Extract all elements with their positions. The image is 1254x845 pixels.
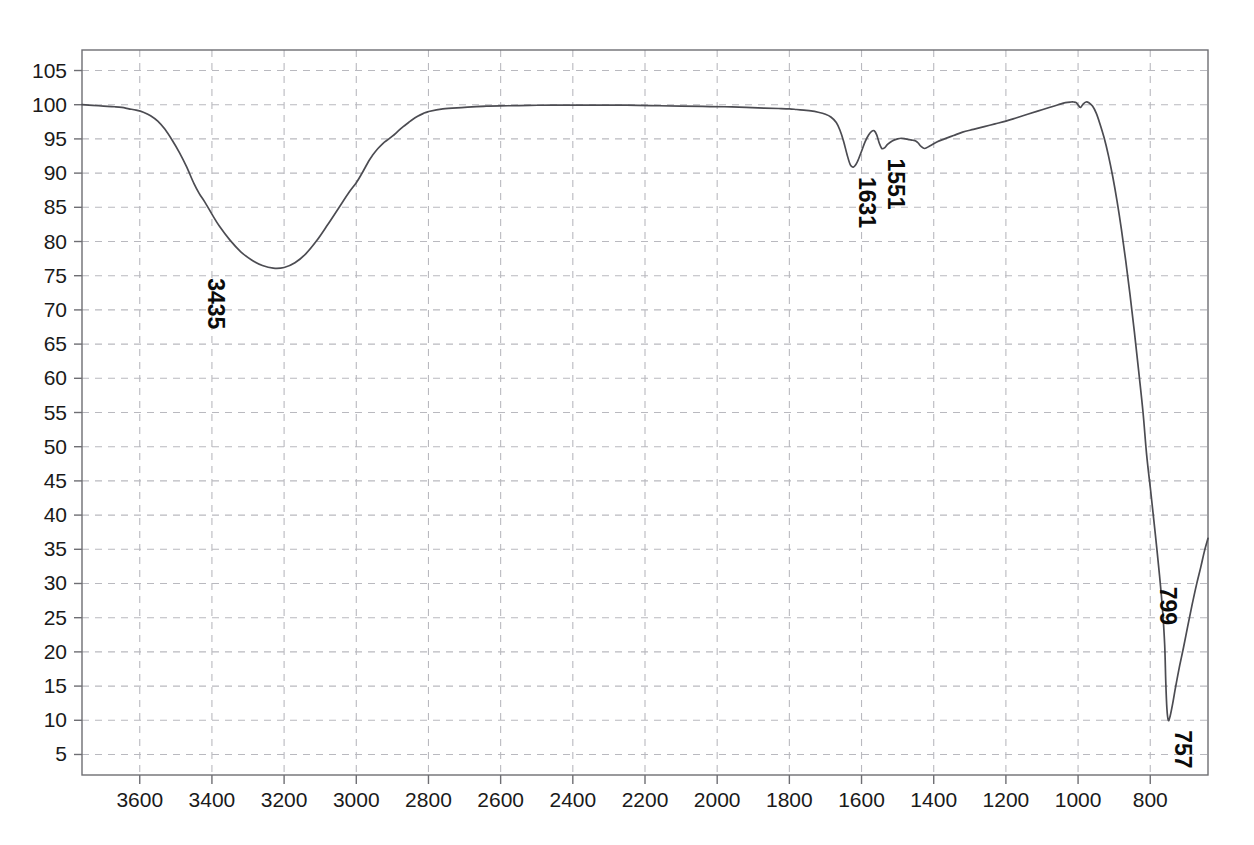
x-axis-tick-label: 1200 (983, 788, 1030, 811)
y-axis-tick-label: 100 (32, 93, 67, 116)
y-axis-tick-label: 20 (44, 640, 67, 663)
x-axis-tick-label: 2000 (694, 788, 741, 811)
peak-label-799: 799 (1155, 587, 1181, 625)
y-axis-tick-label: 50 (44, 435, 67, 458)
y-axis-tick-label: 90 (44, 161, 67, 184)
x-axis-tick-label: 3000 (333, 788, 380, 811)
y-axis-tick-label: 45 (44, 469, 67, 492)
peak-label-757: 757 (1170, 730, 1196, 768)
y-axis-tick-label: 80 (44, 230, 67, 253)
y-axis-tick-label: 35 (44, 537, 67, 560)
x-axis-tick-label: 3200 (261, 788, 308, 811)
y-axis-tick-label: 40 (44, 503, 67, 526)
peak-label-3435: 3435 (203, 278, 229, 329)
peak-label-1551: 1551 (883, 158, 909, 209)
y-axis-tick-label: 15 (44, 674, 67, 697)
ftir-spectrum-chart: 3600340032003000280026002400220020001800… (0, 0, 1254, 845)
y-axis-tick-label: 65 (44, 332, 67, 355)
y-axis-tick-label: 10 (44, 708, 67, 731)
x-axis-tick-label: 1000 (1055, 788, 1102, 811)
x-axis-tick-label: 3400 (189, 788, 236, 811)
y-axis-tick-label: 55 (44, 401, 67, 424)
y-axis-tick-label: 105 (32, 59, 67, 82)
y-axis-tick-label: 75 (44, 264, 67, 287)
x-axis-tick-label: 800 (1133, 788, 1168, 811)
y-axis-tick-label: 70 (44, 298, 67, 321)
y-axis-tick-label: 30 (44, 571, 67, 594)
y-axis-tick-label: 60 (44, 366, 67, 389)
x-axis-tick-label: 2600 (477, 788, 524, 811)
x-axis-tick-label: 2200 (622, 788, 669, 811)
y-axis-tick-label: 5 (55, 742, 67, 765)
x-axis-tick-label: 3600 (116, 788, 163, 811)
y-axis-tick-label: 25 (44, 606, 67, 629)
x-axis-tick-label: 2400 (549, 788, 596, 811)
x-axis-tick-label: 2800 (405, 788, 452, 811)
spectrum-canvas: 3600340032003000280026002400220020001800… (0, 0, 1254, 845)
x-axis-tick-label: 1600 (838, 788, 885, 811)
x-axis-tick-labels: 3600340032003000280026002400220020001800… (116, 788, 1167, 811)
y-axis-tick-label: 95 (44, 127, 67, 150)
x-axis-tick-label: 1800 (766, 788, 813, 811)
x-axis-tick-label: 1400 (910, 788, 957, 811)
chart-background (0, 0, 1254, 845)
peak-label-1631: 1631 (854, 177, 880, 228)
y-axis-tick-label: 85 (44, 195, 67, 218)
